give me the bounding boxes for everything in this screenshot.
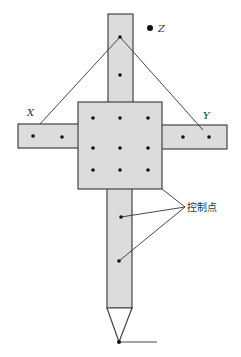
z-point-icon <box>147 25 153 31</box>
z-label: Z <box>157 23 166 34</box>
center-square <box>78 102 162 189</box>
y-label: Y <box>203 110 211 121</box>
x-label: X <box>26 107 35 118</box>
cross-target-diagram: Z X Y 控制点 <box>0 0 241 357</box>
left-arm <box>18 124 80 148</box>
top-stem <box>108 14 133 104</box>
lower-stem <box>107 188 157 344</box>
control-points-label: 控制点 <box>187 201 217 213</box>
control-leader-1 <box>162 189 185 207</box>
right-arm <box>160 125 227 149</box>
